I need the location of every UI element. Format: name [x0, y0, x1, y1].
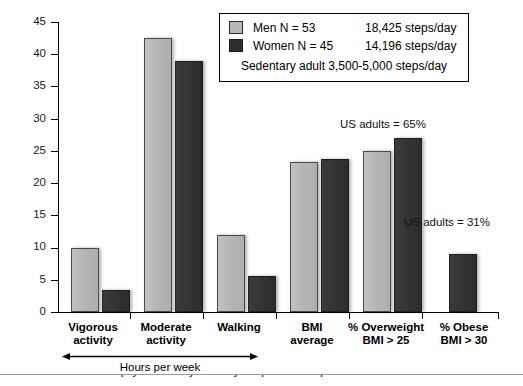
bar-women-bmi — [321, 159, 349, 312]
bar-men-walking — [217, 235, 245, 312]
annotation-obese-us-adults: US adults = 31% — [404, 216, 490, 228]
y-axis-label: 30 — [20, 113, 46, 125]
x-label-line2: activity — [121, 334, 211, 347]
bar-women-moderate — [175, 61, 203, 312]
x-label-obese: % Obese BMI > 30 — [419, 321, 509, 347]
x-axis-line — [58, 312, 499, 313]
legend-row-women: Women N = 45 14,196 steps/day — [220, 37, 468, 54]
figure-caption-clipped: FIGURE Old Order Amish physical activity… — [0, 375, 523, 386]
legend-swatch-women-icon — [229, 39, 243, 52]
legend-swatch-men-icon — [229, 21, 243, 34]
bar-men-vigorous — [71, 248, 99, 312]
bar-men-bmi — [290, 162, 318, 312]
bar-men-moderate — [144, 38, 172, 312]
y-axis-label: 15 — [20, 209, 46, 221]
bar-women-walking — [248, 276, 276, 312]
x-label-line1: % Obese — [440, 321, 489, 333]
x-label-line1: % Overweight — [348, 321, 424, 333]
legend-note-sedentary: Sedentary adult 3,500-5,000 steps/day — [220, 59, 468, 73]
legend-steps-women: 14,196 steps/day — [365, 39, 456, 53]
bar-chart: 45 40 35 30 25 20 15 10 5 0 — [0, 0, 523, 386]
x-label-line2: BMI > 30 — [419, 334, 509, 347]
y-axis-label: 35 — [20, 80, 46, 92]
y-axis-label: 20 — [20, 177, 46, 189]
bar-women-obese — [449, 254, 477, 312]
legend-row-men: Men N = 53 18,425 steps/day — [220, 19, 468, 36]
bar-women-vigorous — [102, 290, 130, 312]
y-axis-label: 40 — [20, 48, 46, 60]
legend: Men N = 53 18,425 steps/day Women N = 45… — [219, 13, 469, 82]
x-label-line1: BMI — [301, 321, 322, 333]
y-axis-label: 10 — [20, 241, 46, 253]
x-label-line1: Vigorous — [68, 321, 118, 333]
figure-caption-text: FIGURE Old Order Amish physical activity… — [4, 375, 414, 377]
y-axis-label: 25 — [20, 145, 46, 157]
bar-men-overweight — [363, 151, 391, 312]
y-axis-label: 0 — [20, 306, 46, 318]
legend-label-women: Women N = 45 — [253, 39, 333, 53]
y-axis-label: 5 — [20, 274, 46, 286]
legend-steps-men: 18,425 steps/day — [365, 21, 456, 35]
x-label-line1: Moderate — [140, 321, 191, 333]
annotation-overweight-us-adults: US adults = 65% — [340, 118, 426, 130]
y-axis-label: 45 — [20, 16, 46, 28]
x-label-line1: Walking — [217, 321, 261, 333]
hours-per-week-label: Hours per week — [62, 360, 258, 374]
legend-label-men: Men N = 53 — [253, 21, 315, 35]
